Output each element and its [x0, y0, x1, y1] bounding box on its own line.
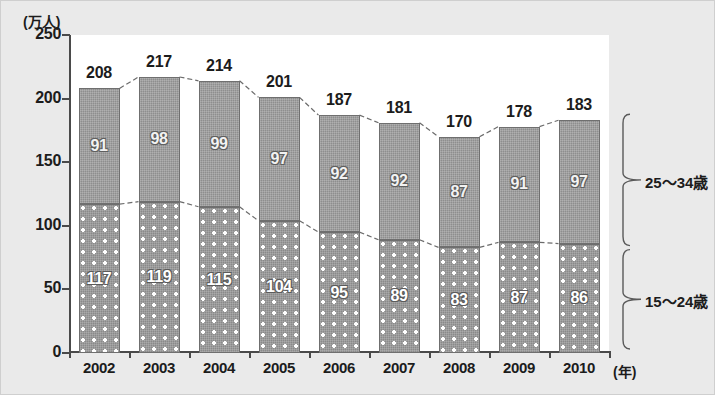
segment-value-lower-2002: 117 — [87, 270, 112, 288]
y-tick-label: 200 — [15, 89, 61, 107]
x-tick — [249, 351, 251, 358]
bar-segment-upper-2004[interactable]: 99 — [199, 81, 240, 207]
x-category-label-2008: 2008 — [429, 359, 489, 376]
total-label-2002: 208 — [69, 64, 129, 82]
bar-2009[interactable]: 9187 — [499, 127, 540, 353]
total-label-2006: 187 — [309, 91, 369, 109]
segment-value-lower-2008: 83 — [450, 291, 467, 309]
bar-segment-lower-2008[interactable]: 83 — [439, 247, 480, 353]
segment-value-lower-2007: 89 — [390, 287, 407, 305]
y-axis-line — [69, 35, 71, 353]
y-tick — [62, 288, 70, 290]
bracket-lower — [623, 250, 641, 349]
x-tick — [609, 351, 611, 358]
bar-segment-lower-2004[interactable]: 115 — [199, 207, 240, 353]
bar-2005[interactable]: 97104 — [259, 97, 300, 353]
bar-2010[interactable]: 9786 — [559, 120, 600, 353]
bar-segment-lower-2003[interactable]: 119 — [139, 202, 180, 353]
y-tick-label: 50 — [15, 279, 61, 297]
total-label-2008: 170 — [429, 113, 489, 131]
bar-2004[interactable]: 99115 — [199, 81, 240, 353]
legend-label-upper: 25～34歳 — [645, 171, 708, 192]
x-tick — [549, 351, 551, 358]
x-category-label-2003: 2003 — [129, 359, 189, 376]
total-label-2007: 181 — [369, 99, 429, 117]
y-tick-label: 0 — [15, 343, 61, 361]
segment-value-upper-2010: 97 — [570, 173, 587, 191]
segment-value-upper-2007: 92 — [390, 172, 407, 190]
x-category-label-2005: 2005 — [249, 359, 309, 376]
x-category-label-2002: 2002 — [69, 359, 129, 376]
total-label-2005: 201 — [249, 73, 309, 91]
bar-2007[interactable]: 9289 — [379, 123, 420, 353]
x-category-label-2009: 2009 — [489, 359, 549, 376]
bar-segment-upper-2006[interactable]: 92 — [319, 115, 360, 232]
segment-value-upper-2005: 97 — [270, 150, 287, 168]
total-label-2009: 178 — [489, 103, 549, 121]
y-tick — [62, 161, 70, 163]
bracket-upper — [623, 114, 641, 245]
segment-value-upper-2008: 87 — [450, 183, 467, 201]
segment-value-upper-2002: 91 — [90, 137, 107, 155]
segment-value-lower-2009: 87 — [510, 289, 527, 307]
segment-value-lower-2006: 95 — [330, 284, 347, 302]
x-tick — [189, 351, 191, 358]
bar-segment-lower-2007[interactable]: 89 — [379, 240, 420, 353]
y-tick-label: 150 — [15, 152, 61, 170]
legend-label-lower: 15～24歳 — [645, 290, 708, 311]
bar-2008[interactable]: 8783 — [439, 137, 480, 353]
bar-segment-lower-2009[interactable]: 87 — [499, 242, 540, 353]
bar-segment-upper-2007[interactable]: 92 — [379, 123, 420, 240]
y-tick — [62, 98, 70, 100]
bar-segment-lower-2005[interactable]: 104 — [259, 221, 300, 353]
y-tick-label: 100 — [15, 216, 61, 234]
total-label-2010: 183 — [549, 96, 609, 114]
bar-segment-upper-2009[interactable]: 91 — [499, 127, 540, 243]
x-axis-unit-label: (年) — [613, 361, 636, 381]
y-tick-label: 250 — [15, 25, 61, 43]
segment-value-upper-2004: 99 — [210, 135, 227, 153]
bar-2003[interactable]: 98119 — [139, 77, 180, 353]
bar-segment-upper-2005[interactable]: 97 — [259, 97, 300, 220]
x-tick — [369, 351, 371, 358]
segment-value-lower-2003: 119 — [147, 268, 172, 286]
bar-segment-lower-2006[interactable]: 95 — [319, 232, 360, 353]
segment-value-upper-2006: 92 — [330, 165, 347, 183]
bar-2006[interactable]: 9295 — [319, 115, 360, 353]
y-tick — [62, 225, 70, 227]
x-category-label-2010: 2010 — [549, 359, 609, 376]
bar-2002[interactable]: 91117 — [79, 88, 120, 353]
bar-segment-upper-2010[interactable]: 97 — [559, 120, 600, 243]
x-category-label-2007: 2007 — [369, 359, 429, 376]
segment-value-upper-2003: 98 — [150, 130, 167, 148]
x-category-label-2006: 2006 — [309, 359, 369, 376]
y-tick — [62, 34, 70, 36]
segment-value-lower-2010: 86 — [570, 289, 587, 307]
bar-segment-lower-2010[interactable]: 86 — [559, 244, 600, 353]
bar-segment-upper-2003[interactable]: 98 — [139, 77, 180, 202]
chart-frame: (万人) (年) 050100150200250 911179811999115… — [0, 0, 715, 395]
bar-segment-upper-2008[interactable]: 87 — [439, 137, 480, 248]
x-tick — [429, 351, 431, 358]
x-tick — [69, 351, 71, 358]
bar-segment-lower-2002[interactable]: 117 — [79, 204, 120, 353]
total-label-2003: 217 — [129, 53, 189, 71]
segment-value-lower-2005: 104 — [266, 278, 292, 296]
bar-segment-upper-2002[interactable]: 91 — [79, 88, 120, 204]
x-tick — [309, 351, 311, 358]
total-label-2004: 214 — [189, 57, 249, 75]
segment-value-lower-2004: 115 — [207, 271, 232, 289]
x-category-label-2004: 2004 — [189, 359, 249, 376]
x-tick — [129, 351, 131, 358]
segment-value-upper-2009: 91 — [510, 175, 527, 193]
x-tick — [489, 351, 491, 358]
